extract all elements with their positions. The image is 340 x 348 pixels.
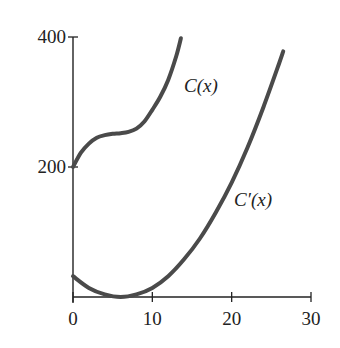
curves bbox=[73, 38, 283, 297]
x-tick-label: 20 bbox=[222, 308, 241, 329]
cost-curves-chart: 0102030200400 C(x)C′(x) bbox=[0, 0, 340, 348]
x-tick-label: 10 bbox=[143, 308, 162, 329]
y-tick-label: 200 bbox=[38, 156, 67, 177]
x-tick-label: 0 bbox=[68, 308, 78, 329]
y-tick-label: 400 bbox=[38, 26, 67, 47]
x-tick-label: 30 bbox=[302, 308, 321, 329]
marginal-cost-curve-label: C′(x) bbox=[234, 189, 272, 211]
cost-curve-label: C(x) bbox=[184, 75, 218, 97]
marginal-cost-curve bbox=[73, 51, 283, 297]
cost-curve bbox=[73, 38, 181, 167]
